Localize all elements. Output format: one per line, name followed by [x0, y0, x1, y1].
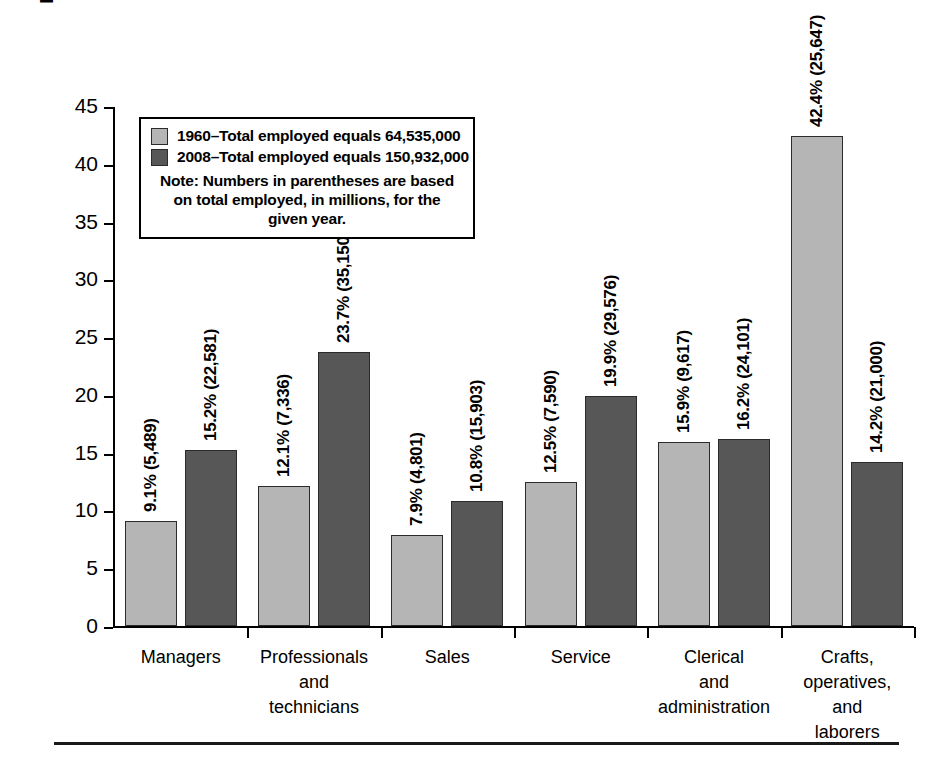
- bar-2008-6: 14.2% (21,000): [851, 462, 903, 626]
- category-label: Managers: [114, 645, 247, 670]
- y-axis-tick-label: 10: [58, 498, 98, 522]
- y-axis-tick: 10: [104, 511, 113, 513]
- category-label: Service: [514, 645, 647, 670]
- bar-2008-5: 16.2% (24,101): [718, 439, 770, 626]
- bar-value-label: 14.2% (21,000): [867, 341, 887, 453]
- category-label: Professionals and technicians: [247, 645, 380, 720]
- y-axis-tick: 5: [104, 569, 113, 571]
- legend-swatch-1960-icon: [151, 128, 168, 145]
- bar-1960-3: 7.9% (4,801): [391, 535, 443, 626]
- y-axis-tick: 20: [104, 396, 113, 398]
- y-axis-tick-label: 40: [58, 152, 98, 176]
- y-axis-tick-label: 20: [58, 383, 98, 407]
- legend-label-2008: 2008–Total employed equals 150,932,000: [177, 148, 469, 166]
- y-axis-tick-label: 15: [58, 441, 98, 465]
- bar-1960-4: 12.5% (7,590): [525, 482, 577, 626]
- bar-value-label: 23.7% (35,150): [334, 231, 354, 343]
- x-axis-tick: [514, 627, 516, 638]
- bar-value-label: 19.9% (29,576): [601, 275, 621, 387]
- bar-value-label: 15.2% (22,581): [201, 329, 221, 441]
- bar-2008-1: 15.2% (22,581): [185, 450, 237, 626]
- category-label: Clerical and administration: [647, 645, 780, 720]
- x-axis-tick: [647, 627, 649, 638]
- bar-value-label: 15.9% (9,617): [674, 330, 694, 433]
- y-axis-tick: 30: [104, 280, 113, 282]
- x-axis-tick: [914, 627, 916, 638]
- bar-value-label: 16.2% (24,101): [734, 318, 754, 430]
- y-axis-tick-label: 35: [58, 210, 98, 234]
- bar-chart-figure: Percentage of total workforce 0510152025…: [0, 0, 934, 758]
- legend-item-1960: 1960–Total employed equals 64,535,000: [151, 127, 463, 145]
- bar-1960-1: 9.1% (5,489): [125, 521, 177, 626]
- legend-note: Note: Numbers in parentheses are based o…: [151, 171, 463, 228]
- bar-2008-3: 10.8% (15,903): [451, 501, 503, 626]
- bar-value-label: 7.9% (4,801): [407, 432, 427, 526]
- legend-swatch-2008-icon: [151, 149, 168, 166]
- category-label: Sales: [381, 645, 514, 670]
- legend: 1960–Total employed equals 64,535,000 20…: [139, 117, 475, 239]
- bar-value-label: 42.4% (25,647): [807, 15, 827, 127]
- y-axis-title: Percentage of total workforce: [34, 0, 60, 133]
- bar-1960-6: 42.4% (25,647): [791, 136, 843, 626]
- y-axis-tick: 40: [104, 165, 113, 167]
- x-axis-tick: [381, 627, 383, 638]
- y-axis-tick: 0: [104, 627, 113, 629]
- x-axis-tick: [247, 627, 249, 638]
- x-axis-tick: [781, 627, 783, 638]
- bar-value-label: 12.1% (7,336): [274, 374, 294, 477]
- y-axis-tick-label: 5: [58, 556, 98, 580]
- legend-item-2008: 2008–Total employed equals 150,932,000: [151, 148, 463, 166]
- y-axis-tick-label: 0: [58, 614, 98, 638]
- category-label: Crafts, operatives, and laborers: [781, 645, 914, 745]
- y-axis-tick: 45: [104, 107, 113, 109]
- bottom-divider: [54, 742, 899, 745]
- y-axis-tick: 25: [104, 338, 113, 340]
- bar-1960-5: 15.9% (9,617): [658, 442, 710, 626]
- y-axis-tick: 15: [104, 454, 113, 456]
- bar-value-label: 9.1% (5,489): [141, 418, 161, 512]
- bar-value-label: 10.8% (15,903): [467, 380, 487, 492]
- y-axis-tick-label: 45: [58, 94, 98, 118]
- y-axis-tick: 35: [104, 223, 113, 225]
- bar-1960-2: 12.1% (7,336): [258, 486, 310, 626]
- legend-label-1960: 1960–Total employed equals 64,535,000: [177, 127, 461, 145]
- y-axis-tick-label: 25: [58, 325, 98, 349]
- bar-2008-2: 23.7% (35,150): [318, 352, 370, 626]
- bar-value-label: 12.5% (7,590): [541, 370, 561, 473]
- y-axis-line: [113, 107, 115, 628]
- bar-2008-4: 19.9% (29,576): [585, 396, 637, 626]
- y-axis-tick-label: 30: [58, 267, 98, 291]
